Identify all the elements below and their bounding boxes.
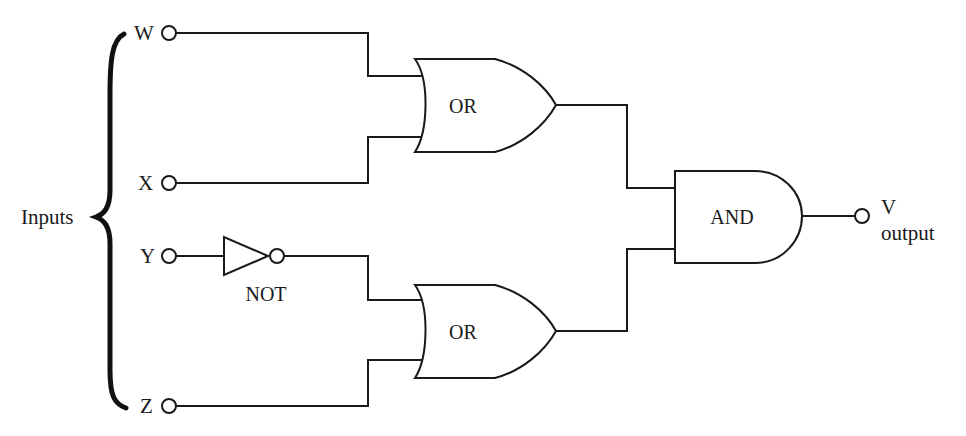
not-gate-label: NOT: [245, 283, 286, 305]
not-gate: NOT: [224, 237, 287, 305]
wire-or-top-to-and: [556, 105, 675, 188]
terminal-v-output: [855, 209, 869, 223]
input-label-y: Y: [140, 244, 155, 268]
inputs-brace: [96, 34, 126, 408]
terminal-x: [162, 176, 176, 190]
terminal-w: [162, 26, 176, 40]
input-label-x: X: [138, 171, 153, 195]
wire-or-bottom-to-and: [556, 249, 675, 331]
wire-x-to-or-top: [176, 137, 425, 183]
or-gate-bottom: OR: [415, 285, 556, 378]
input-label-w: W: [134, 21, 154, 45]
terminal-y: [162, 249, 176, 263]
terminal-z: [162, 399, 176, 413]
output-label-v: V: [881, 195, 896, 219]
or-gate-top: OR: [415, 59, 556, 152]
not-gate-bubble: [270, 249, 284, 263]
input-label-z: Z: [140, 394, 153, 418]
inputs-group-label: Inputs: [21, 205, 74, 229]
and-gate-label: AND: [710, 206, 753, 228]
wire-w-to-or-top: [176, 33, 425, 76]
and-gate: AND: [675, 171, 802, 263]
or-gate-top-label: OR: [449, 95, 477, 117]
logic-circuit-diagram: Inputs W X Y Z OR OR NOT AND V output: [0, 0, 966, 436]
wire-z-to-or-bottom: [176, 360, 425, 406]
wire-not-to-or-bottom: [284, 256, 425, 300]
output-caption: output: [881, 221, 935, 245]
or-gate-bottom-label: OR: [449, 321, 477, 343]
